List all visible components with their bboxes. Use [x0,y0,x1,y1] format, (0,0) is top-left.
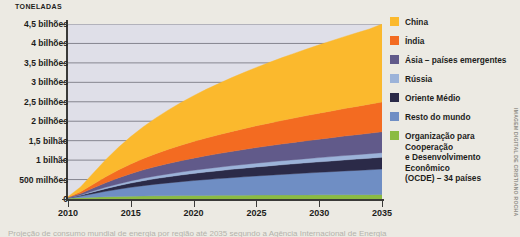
y-axis-tick-mark [62,24,68,25]
legend-item-label: Resto do mundo [405,112,470,123]
x-axis-tick-mark [382,201,383,207]
x-axis-tick-label: 2035 [372,208,392,218]
legend-swatch-icon [390,17,399,26]
x-axis-tick-label: 2010 [58,208,78,218]
x-axis-tick-label: 2025 [246,208,266,218]
y-axis-tick-label: 4 bilhões [6,38,68,48]
x-axis-tick-mark [131,201,132,207]
x-axis-line [66,199,384,201]
plot-area [68,24,382,199]
y-axis-tick-label: 3,5 bilhões [6,58,68,68]
y-axis-tick-label: 3 bilhões [6,77,68,87]
x-axis-tick-label: 2030 [309,208,329,218]
chart-figure: TONELADAS 0500 milhões1 bilhão1,5 bilhão… [0,0,520,237]
y-axis-tick-labels: 0500 milhões1 bilhão1,5 bilhão2 bilhões2… [0,0,68,237]
legend-item[interactable]: Organização para Cooperação e Desenvolvi… [390,131,510,184]
y-axis-tick-label: 1 bilhão [6,155,68,165]
legend-item-label: Ásia – países emergentes [405,55,506,66]
y-axis-tick-mark [62,82,68,83]
legend-item[interactable]: Rússia [390,74,510,85]
y-axis-tick-label: 2,5 bilhões [6,97,68,107]
y-axis-tick-mark [62,160,68,161]
y-axis-tick-label: 1,5 bilhão [6,136,68,146]
legend-item-label: China [405,17,428,28]
x-axis-tick-mark [68,201,69,207]
y-axis-tick-mark [62,121,68,122]
legend-item-label: Índia [405,36,424,47]
legend-item[interactable]: China [390,17,510,28]
x-axis-tick-mark [256,201,257,207]
legend-item[interactable]: Oriente Médio [390,93,510,104]
x-axis-tick-label: 2015 [121,208,141,218]
y-axis-tick-mark [62,43,68,44]
y-axis-tick-label: 2 bilhões [6,116,68,126]
legend-swatch-icon [390,93,399,102]
x-axis-tick-label: 2020 [184,208,204,218]
legend-item-label: Organização para Cooperação e Desenvolvi… [405,131,510,184]
area-series-group [68,24,382,199]
legend-swatch-icon [390,36,399,45]
legend-item-label: Rússia [405,74,432,85]
legend-item[interactable]: Ásia – países emergentes [390,55,510,66]
legend-swatch-icon [390,131,399,140]
bottom-caption: Projeção de consumo mundial de energia p… [8,229,508,237]
stacked-area-svg [68,24,382,199]
y-axis-tick-mark [62,63,68,64]
y-axis-tick-mark [62,180,68,181]
legend-swatch-icon [390,74,399,83]
y-axis-tick-mark [62,141,68,142]
legend-swatch-icon [390,55,399,64]
x-axis-tick-mark [319,201,320,207]
y-axis-tick-label: 0 [6,194,68,204]
y-axis-tick-mark [62,102,68,103]
legend-swatch-icon [390,112,399,121]
legend-item[interactable]: Índia [390,36,510,47]
y-axis-tick-label: 4,5 bilhões [6,19,68,29]
legend-item[interactable]: Resto do mundo [390,112,510,123]
legend-item-label: Oriente Médio [405,93,460,104]
image-credit: IMAGEM DIGITAL DE CRISTIANO ROCHA [513,108,519,216]
chart-legend: ChinaÍndiaÁsia – países emergentesRússia… [390,17,510,192]
y-axis-tick-label: 500 milhões [6,175,68,185]
x-axis-tick-mark [194,201,195,207]
